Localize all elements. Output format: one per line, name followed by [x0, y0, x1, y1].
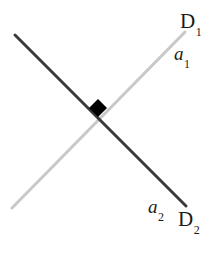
label-d1-base: D [180, 9, 195, 33]
label-d2-subscript: 2 [194, 223, 200, 237]
label-d1: D1 [180, 11, 201, 34]
label-a1-base: a [174, 43, 184, 64]
label-a2-base: a [148, 196, 158, 217]
label-d1-subscript: 1 [196, 25, 202, 39]
figure-canvas: D1 a1 a2 D2 [0, 0, 220, 254]
label-a2-subscript: 2 [158, 210, 164, 224]
label-a2: a2 [148, 197, 164, 219]
label-d2: D2 [178, 209, 199, 232]
label-a1-subscript: 1 [184, 57, 190, 71]
label-d2-base: D [178, 207, 193, 231]
label-a1: a1 [174, 44, 190, 66]
